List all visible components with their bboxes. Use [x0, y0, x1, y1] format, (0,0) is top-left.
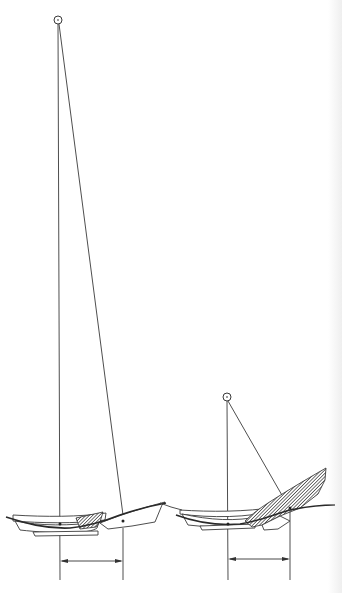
right-arrowhead-left-icon — [228, 557, 236, 561]
left-arrowhead-right-icon — [115, 559, 123, 563]
right-suspension-line — [228, 401, 283, 497]
page-edge-shadow — [328, 0, 342, 593]
left-pivot-center-icon — [57, 19, 59, 21]
left-reference-marker — [59, 523, 62, 526]
left-dimension-arrow — [60, 559, 123, 563]
right-pivot-center-icon — [226, 396, 228, 398]
right-panel — [171, 393, 335, 580]
right-displaced-hull-hatch — [245, 468, 326, 527]
right-reference-marker — [227, 523, 230, 526]
right-arrowhead-right-icon — [282, 557, 290, 561]
right-dimension-arrow — [228, 557, 290, 561]
left-hull-marker — [122, 520, 125, 523]
left-arrowhead-left-icon — [60, 559, 68, 563]
left-ghost-hull-keel — [33, 531, 98, 536]
left-vertical-reference-line — [58, 24, 60, 580]
left-panel — [6, 16, 171, 580]
left-displaced-hull — [100, 502, 165, 529]
left-suspension-line — [59, 24, 123, 515]
right-wave-lead — [171, 507, 182, 510]
pendulum-hull-diagram — [0, 0, 342, 593]
right-hull-marker — [289, 507, 292, 510]
diagram-canvas — [0, 0, 342, 593]
right-vertical-reference-line — [227, 401, 228, 580]
